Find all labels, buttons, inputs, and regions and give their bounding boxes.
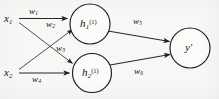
weight-label-w4: w4 xyxy=(32,75,41,85)
node-label-h1: h1(1) xyxy=(80,18,97,30)
weight-label-w2: w2 xyxy=(46,20,55,30)
input-label-x2: x2 xyxy=(4,67,12,79)
input-label-x1: x1 xyxy=(4,13,12,25)
weight-label-w6: w6 xyxy=(134,67,143,77)
weight-label-w3: w3 xyxy=(56,44,65,54)
edge-h1-to-y xyxy=(108,31,170,42)
prime-symbol: ′ xyxy=(190,42,192,53)
edge-h2-to-y xyxy=(110,55,170,66)
neural-network-diagram: x1 x2 w1 w2 w3 w4 w5 w6 h1(1) h2(1) y′ xyxy=(0,0,219,99)
node-label-y-output: y′ xyxy=(185,42,192,53)
node-label-h2: h2(1) xyxy=(82,67,99,79)
weight-label-w1: w1 xyxy=(29,7,38,17)
weight-label-w5: w5 xyxy=(133,17,142,27)
